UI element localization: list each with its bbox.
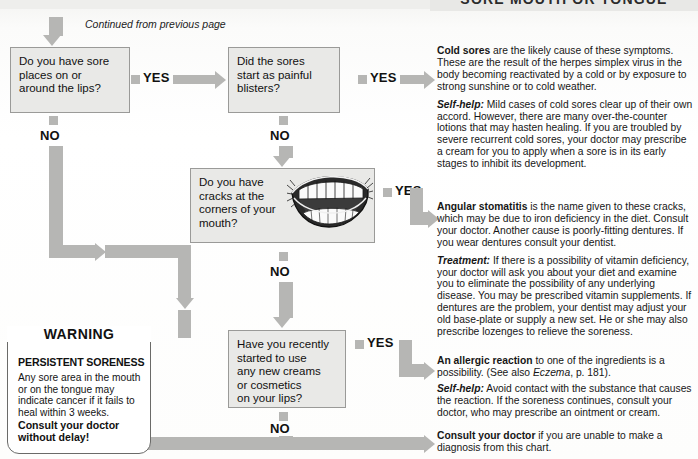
- question-box-new-creams-cosmetics[interactable]: Have you recently started to use any new…: [228, 330, 346, 408]
- question-line: places on or: [19, 69, 121, 83]
- cold-sores-selfhelp-label: Self-help:: [437, 99, 484, 110]
- question-line: start as painful: [237, 69, 331, 83]
- no-label-q1: NO: [40, 128, 60, 143]
- no-label-q3: NO: [270, 264, 290, 279]
- answer-fallback-consult-doctor: Consult your doctor if you are unable to…: [437, 430, 695, 454]
- yes-connector-arrowhead-q4: [424, 362, 435, 380]
- allergic-reaction-selfhelp-label: Self-help:: [437, 383, 484, 394]
- yes-connector-arrowhead-q1: [215, 71, 226, 89]
- question-line: Do you have sore: [19, 55, 121, 69]
- cold-sores-selfhelp-paragraph: Self-help: Mild cases of cold sores clea…: [437, 99, 695, 170]
- merge-rail-vertical: [178, 245, 191, 300]
- continued-from-previous-page-label: Continued from previous page: [85, 18, 226, 30]
- yes-label-q1: YES: [143, 70, 170, 85]
- merge-rail-arrowhead: [176, 298, 194, 309]
- yes-connector-tick-q3: [383, 188, 392, 197]
- page-title: SORE MOUTH OR TONGUE: [430, 0, 698, 7]
- no-connector-tick-q4: [279, 412, 288, 421]
- angular-stomatitis-lead-paragraph: Angular stomatitis is the name given to …: [437, 201, 695, 249]
- no-connector-tick-q3: [279, 252, 288, 261]
- answer-cold-sores: Cold sores are the likely cause of these…: [437, 45, 695, 170]
- question-line: blisters?: [237, 82, 331, 96]
- no-connector-arrowhead-q2: [273, 156, 291, 167]
- question-line: or cosmetics: [237, 379, 337, 393]
- angular-stomatitis-lead: Angular stomatitis: [437, 201, 527, 212]
- question-box-sore-places-lips[interactable]: Do you have sore places on or around the…: [10, 47, 130, 113]
- cold-sores-lead: Cold sores: [437, 45, 490, 56]
- yes-label-q4: YES: [367, 335, 394, 350]
- allergic-reaction-cross-ref: Eczema: [533, 367, 570, 378]
- no-connector-arrowhead-q3: [273, 317, 291, 328]
- question-line: on your lips?: [237, 392, 337, 406]
- allergic-reaction-cross-ref-rest: , p. 181).: [570, 367, 611, 378]
- answer-allergic-reaction: An allergic reaction to one of the ingre…: [437, 355, 695, 419]
- question-box-painful-blisters[interactable]: Did the sores start as painful blisters?: [228, 47, 340, 113]
- fallback-rail-horizontal: [112, 437, 425, 450]
- warning-subtitle: PERSISTENT SORENESS: [18, 356, 146, 368]
- yes-connector-elbow-q3: [410, 212, 429, 225]
- merge-rail-lower-shaft: [178, 310, 191, 338]
- fallback-paragraph: Consult your doctor if you are unable to…: [437, 430, 695, 454]
- warning-body-text: Any sore area in the mouth or on the ton…: [18, 372, 144, 418]
- warning-cta-line1: Consult your doctor: [18, 419, 119, 431]
- entry-connector-arrowhead: [43, 35, 61, 46]
- allergic-reaction-lead-paragraph: An allergic reaction to one of the ingre…: [437, 355, 695, 379]
- yes-connector-shaft-q1: [173, 75, 216, 84]
- question-line: around the lips?: [19, 82, 121, 96]
- no-connector-elbow-q1: [49, 245, 96, 258]
- no-label-q4: NO: [270, 421, 290, 436]
- warning-cta-line2: without delay!: [18, 431, 89, 443]
- open-mouth-illustration: [287, 168, 373, 230]
- entry-connector-shaft: [49, 17, 63, 36]
- page-header-bar: SORE MOUTH OR TONGUE: [430, 0, 698, 11]
- question-line: Did the sores: [237, 55, 331, 69]
- chart-page: SORE MOUTH OR TONGUE Continued from prev…: [0, 0, 698, 459]
- warning-title: WARNING: [7, 326, 151, 342]
- no-connector-tick-q1: [49, 116, 58, 125]
- angular-stomatitis-treatment-text: If there is a possibility of vitamin def…: [437, 255, 691, 337]
- page-top-edge: [0, 0, 430, 9]
- yes-connector-tick-q1: [131, 75, 140, 84]
- yes-connector-arrowhead-q2: [424, 71, 435, 89]
- cold-sores-lead-paragraph: Cold sores are the likely cause of these…: [437, 45, 695, 93]
- no-connector-shaft-q3: [279, 282, 293, 318]
- allergic-reaction-selfhelp-paragraph: Self-help: Avoid contact with the substa…: [437, 383, 695, 419]
- yes-connector-tick-q2: [358, 75, 367, 84]
- question-line: Have you recently: [237, 338, 337, 352]
- yes-connector-shaft-q2: [400, 75, 425, 84]
- fallback-rail-arrowhead: [424, 435, 435, 453]
- answer-angular-stomatitis: Angular stomatitis is the name given to …: [437, 201, 695, 338]
- yes-connector-drop-q3: [410, 188, 423, 215]
- warning-cta: Consult your doctor without delay!: [18, 419, 146, 443]
- no-connector-shaft-q1: [49, 146, 63, 254]
- question-line: started to use: [237, 352, 337, 366]
- no-label-q2: NO: [270, 128, 290, 143]
- yes-connector-tick-q4: [355, 340, 364, 349]
- allergic-reaction-lead: An allergic reaction: [437, 355, 533, 366]
- yes-label-q2: YES: [370, 70, 397, 85]
- question-line: any new creams: [237, 365, 337, 379]
- angular-stomatitis-treatment-label: Treatment:: [437, 255, 490, 266]
- yes-connector-elbow-q4: [399, 364, 425, 377]
- fallback-lead: Consult your doctor: [437, 430, 535, 441]
- angular-stomatitis-treatment-paragraph: Treatment: If there is a possibility of …: [437, 255, 695, 338]
- no-connector-tick-q2: [279, 116, 288, 125]
